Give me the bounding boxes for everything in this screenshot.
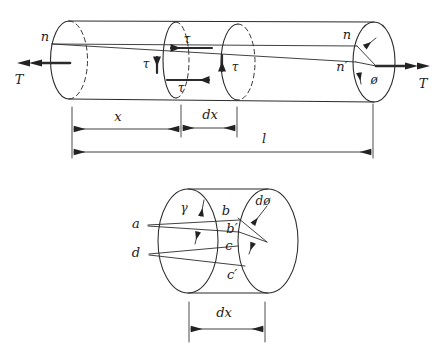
dim-l-label: l [262, 131, 266, 146]
shaft-torsion-figure [17, 21, 430, 158]
twisted-line-nnprime [52, 44, 356, 62]
torsion-diagram-page: n T τ τ τ τ n n′ ø T x dx l [0, 0, 448, 358]
generator-line-nn [52, 44, 357, 46]
shaft-top-edge [69, 21, 374, 22]
tau-right-label: τ [232, 60, 239, 74]
radius-to-b [238, 218, 267, 242]
element-left-ellipse [158, 189, 218, 293]
torque-arrow-right-icon [376, 62, 430, 69]
dim-x-label: x [114, 109, 122, 124]
radius-to-bprime [239, 232, 267, 242]
dim-dx-element-label: dx [216, 305, 232, 320]
phi-angle-label: ø [369, 73, 378, 87]
point-cprime-label: c′ [227, 267, 237, 282]
right-end-ellipse [353, 22, 395, 102]
line-dcprime [149, 255, 245, 266]
angle-arrow-n-icon [365, 38, 376, 47]
tau-left-label: τ [143, 57, 150, 71]
torque-left-label: T [15, 72, 25, 87]
torsion-diagram-svg: n T τ τ τ τ n n′ ø T x dx l [0, 0, 448, 358]
point-b-label: b [222, 203, 230, 218]
line-abprime [148, 226, 239, 232]
left-end-front-arc [51, 21, 69, 99]
point-a-label: a [132, 216, 140, 231]
dim-dx-label: dx [202, 107, 218, 122]
tau-top-label: τ [184, 32, 191, 46]
n-left-label: n [41, 29, 49, 44]
n-prime-label: n′ [336, 59, 347, 74]
gamma-label: γ [180, 201, 188, 215]
section-xdx-back-arc [238, 24, 255, 100]
angle-arrow-nprime-icon [359, 73, 361, 84]
tau-bottom-label: τ [178, 81, 185, 95]
shaft-bottom-edge [69, 99, 374, 102]
point-d-label: d [132, 245, 140, 260]
n-right-label: n [343, 27, 351, 42]
section-x-front-arc [163, 22, 176, 98]
point-c-label: c [225, 238, 233, 253]
torque-right-label: T [419, 76, 429, 91]
dphi-arrow-icon [253, 206, 267, 224]
gamma-arrow-up-icon [195, 232, 198, 244]
gamma-arrow-down-icon [201, 200, 204, 216]
left-end-back-arc [69, 21, 88, 99]
dphi-arrow-up-icon [249, 243, 253, 254]
torque-arrow-left-icon [17, 59, 70, 66]
point-bprime-label: b′ [226, 221, 237, 236]
dphi-label: dø [256, 194, 272, 208]
